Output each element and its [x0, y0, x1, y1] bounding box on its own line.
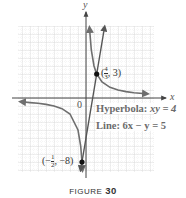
origin-label: 0	[77, 99, 82, 110]
x-axis-label: x	[170, 91, 174, 102]
line-equation-label: Line: 6x − y = 5	[96, 120, 166, 131]
y-axis-label: y	[83, 0, 87, 10]
point-label-4-3-3: (43, 3)	[101, 66, 121, 81]
equation-text: xy = 4	[150, 103, 176, 114]
figure-30: y x 0 (43, 3) (−12, −8) Hyperbola: xy = …	[0, 0, 186, 198]
point-y-value: , −8)	[54, 155, 73, 166]
equation-text: 6x − y = 5	[123, 120, 166, 131]
chart-canvas	[0, 0, 186, 198]
figure-caption: FIGURE 30	[0, 185, 186, 196]
intersection-point-2	[79, 159, 84, 164]
label-prefix: Line:	[96, 120, 123, 131]
caption-number: 30	[105, 185, 117, 196]
hyperbola-equation-label: Hyperbola: xy = 4	[96, 103, 176, 114]
label-prefix: Hyperbola:	[96, 103, 150, 114]
point-y-value: , 3)	[108, 67, 121, 78]
caption-word: FIGURE	[69, 187, 102, 196]
intersection-point-1	[94, 71, 99, 76]
point-label-neg-half-neg-8: (−12, −8)	[42, 154, 73, 169]
